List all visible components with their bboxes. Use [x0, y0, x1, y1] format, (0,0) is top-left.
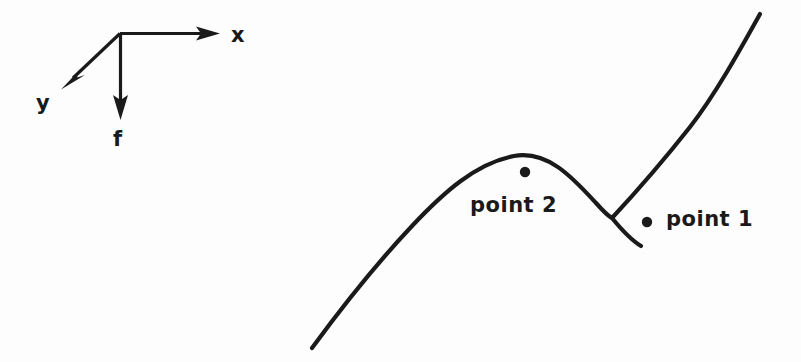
point-2-label: point 2 [470, 195, 557, 216]
figure-graphic [0, 0, 801, 362]
curve-group [312, 14, 760, 348]
curve-upper-branch [612, 14, 760, 218]
axes-group [61, 27, 220, 121]
axis-label-f: f [113, 129, 122, 150]
axis-f [113, 34, 128, 121]
axis-y-line [73, 34, 120, 79]
curve-main-branch [312, 155, 641, 348]
axis-x [120, 27, 220, 41]
arrow-down-left-icon [61, 70, 85, 90]
figure-canvas: x y f point 2 point 1 [0, 0, 801, 362]
point-1-dot [642, 217, 652, 227]
axis-label-x: x [231, 25, 245, 46]
axis-label-y: y [36, 93, 50, 114]
axis-y [61, 34, 120, 90]
point-1-label: point 1 [666, 209, 753, 230]
point-2-dot [520, 167, 530, 177]
